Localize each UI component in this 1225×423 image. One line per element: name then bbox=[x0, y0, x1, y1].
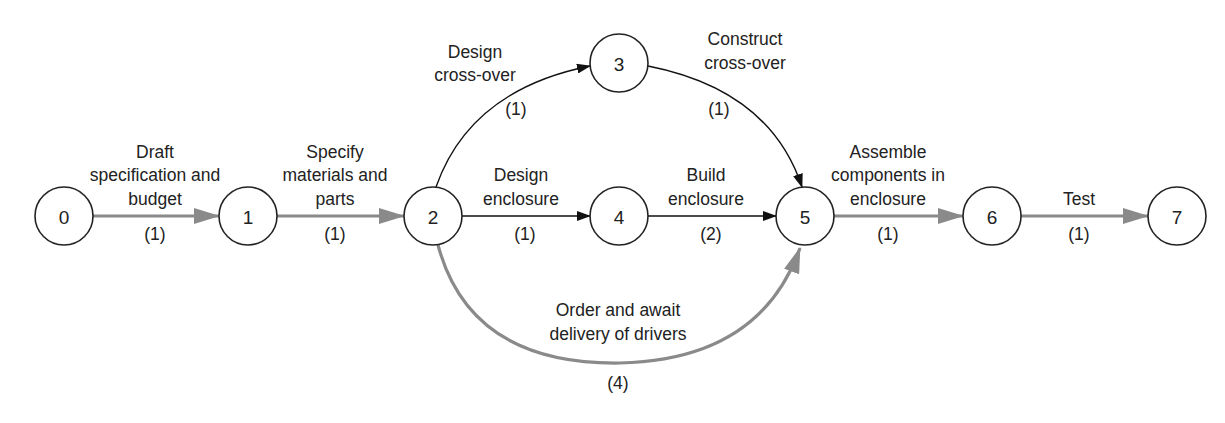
edge-duration: (1) bbox=[708, 99, 729, 119]
edge-label: Draft bbox=[136, 142, 174, 162]
node-3: 3 bbox=[590, 34, 648, 92]
network-diagram: Draft specification and budget (1) Speci… bbox=[0, 0, 1225, 423]
node-label: 4 bbox=[614, 207, 625, 228]
edge-2-5: Order and await delivery of drivers (4) bbox=[438, 245, 800, 393]
edge-label: Construct bbox=[708, 29, 783, 49]
edge-label: Order and await bbox=[556, 300, 681, 320]
node-6: 6 bbox=[963, 187, 1021, 245]
edge-duration: (1) bbox=[514, 224, 535, 244]
node-2: 2 bbox=[404, 187, 462, 245]
edge-label: budget bbox=[128, 189, 182, 209]
edge-label: specification and bbox=[90, 165, 220, 185]
edge-label: Design bbox=[448, 42, 502, 62]
edge-label: enclosure bbox=[483, 189, 559, 209]
node-5: 5 bbox=[776, 187, 834, 245]
edge-label: Design bbox=[494, 165, 548, 185]
edge-duration: (1) bbox=[324, 224, 345, 244]
edge-duration: (1) bbox=[505, 99, 526, 119]
node-4: 4 bbox=[590, 187, 648, 245]
edge-4-5: Build enclosure (2) bbox=[648, 165, 776, 244]
edge-label: parts bbox=[316, 189, 355, 209]
edge-2-4: Design enclosure (1) bbox=[462, 165, 590, 244]
diagram-svg: Draft specification and budget (1) Speci… bbox=[0, 0, 1225, 423]
node-1: 1 bbox=[219, 187, 277, 245]
node-label: 2 bbox=[428, 207, 439, 228]
node-label: 3 bbox=[614, 54, 625, 75]
edge-0-1: Draft specification and budget (1) bbox=[90, 142, 220, 244]
edge-label: Assemble bbox=[850, 142, 927, 162]
edge-duration: (2) bbox=[700, 224, 721, 244]
node-label: 1 bbox=[243, 207, 254, 228]
edge-label: cross-over bbox=[704, 53, 786, 73]
edge-label: Build bbox=[687, 165, 726, 185]
edge-5-6: Assemble components in enclosure (1) bbox=[831, 142, 963, 244]
edge-1-2: Specify materials and parts (1) bbox=[277, 142, 404, 244]
edge-label: Test bbox=[1063, 189, 1095, 209]
edge-3-5: Construct cross-over (1) bbox=[648, 29, 802, 187]
edge-label: enclosure bbox=[850, 189, 926, 209]
edge-duration: (1) bbox=[1068, 224, 1089, 244]
edge-duration: (4) bbox=[607, 373, 628, 393]
node-label: 5 bbox=[800, 207, 811, 228]
edge-duration: (1) bbox=[144, 224, 165, 244]
edge-duration: (1) bbox=[877, 224, 898, 244]
edge-label: cross-over bbox=[434, 65, 516, 85]
edge-label: delivery of drivers bbox=[549, 324, 686, 344]
edge-label: enclosure bbox=[668, 189, 744, 209]
node-label: 7 bbox=[1172, 207, 1183, 228]
node-0: 0 bbox=[35, 187, 93, 245]
edge-label: components in bbox=[831, 165, 945, 185]
node-7: 7 bbox=[1148, 187, 1206, 245]
node-label: 6 bbox=[987, 207, 998, 228]
edge-label: materials and bbox=[282, 165, 387, 185]
node-label: 0 bbox=[59, 207, 70, 228]
edge-6-7: Test (1) bbox=[1021, 189, 1148, 244]
edge-label: Specify bbox=[306, 142, 364, 162]
